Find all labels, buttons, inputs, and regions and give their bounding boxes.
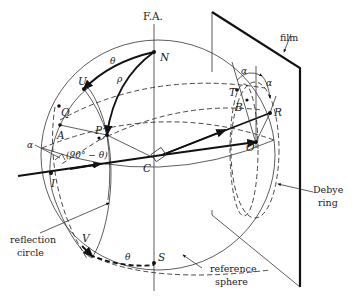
label-p: P bbox=[94, 124, 103, 136]
label-i: I bbox=[50, 177, 56, 189]
axis-label-fa: F.A. bbox=[143, 10, 163, 22]
annotation-film: film bbox=[280, 32, 298, 43]
angle-alpha-left: α bbox=[27, 140, 33, 150]
diffraction-sphere-diagram: F.A. bbox=[0, 0, 353, 296]
reflection-circle bbox=[50, 88, 111, 260]
annotation-reference-1: reference bbox=[210, 263, 257, 274]
annotation-reflection-1: reflection bbox=[10, 234, 56, 245]
film-plane bbox=[212, 12, 300, 287]
angle-theta-top: θ bbox=[110, 56, 116, 66]
angle-ninety-minus-theta: (90° − θ) bbox=[66, 150, 108, 160]
label-b: B bbox=[234, 101, 243, 113]
label-o: O bbox=[246, 141, 255, 153]
angle-alpha-top-2: α bbox=[266, 78, 272, 88]
annotation-reference-2: sphere bbox=[215, 276, 248, 287]
label-a: A bbox=[56, 129, 65, 141]
angle-theta-bottom: θ bbox=[125, 252, 131, 262]
label-t: T bbox=[229, 86, 237, 98]
label-c: C bbox=[143, 162, 151, 174]
annotation-reflection-2: circle bbox=[17, 247, 44, 258]
angle-rho: ρ bbox=[116, 74, 123, 84]
label-v: V bbox=[82, 232, 91, 244]
angle-alpha-top-1: α bbox=[241, 66, 247, 76]
label-n: N bbox=[159, 51, 170, 63]
annotation-debye-1: Debye bbox=[313, 184, 344, 195]
label-s: S bbox=[158, 251, 165, 263]
annotation-debye-2: ring bbox=[318, 197, 338, 208]
label-q: Q bbox=[61, 106, 70, 119]
label-r: R bbox=[273, 106, 282, 118]
label-u: U bbox=[78, 75, 88, 87]
